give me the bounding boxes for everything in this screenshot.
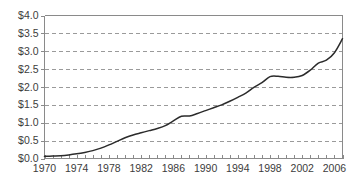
y-tick-label: $1.0 [18,116,39,128]
x-tick-label: 2002 [291,162,315,174]
y-tick-label: $2.0 [18,81,39,93]
x-tick-label: 1982 [129,162,153,174]
x-tick-label: 2006 [323,162,347,174]
x-tick-label: 1970 [33,162,57,174]
line-chart: $0.0$0.5$1.0$1.5$2.0$2.5$3.0$3.5$4.0 197… [0,0,361,187]
y-tick-label: $4.0 [18,9,39,21]
y-tick-label: $0.5 [18,134,39,146]
x-tick-label: 1974 [65,162,89,174]
y-tick-label: $2.5 [18,63,39,75]
y-tick-label: $3.5 [18,27,39,39]
x-tick-label: 1998 [258,162,282,174]
chart-canvas: $0.0$0.5$1.0$1.5$2.0$2.5$3.0$3.5$4.0 197… [0,0,361,187]
x-tick-label: 1978 [97,162,121,174]
y-tick-label: $3.0 [18,45,39,57]
x-tick-label: 1990 [194,162,218,174]
y-tick-label: $1.5 [18,98,39,110]
y-axis-tick-labels: $0.0$0.5$1.0$1.5$2.0$2.5$3.0$3.5$4.0 [18,9,39,164]
x-tick-label: 1994 [226,162,250,174]
x-tick-label: 1986 [162,162,186,174]
